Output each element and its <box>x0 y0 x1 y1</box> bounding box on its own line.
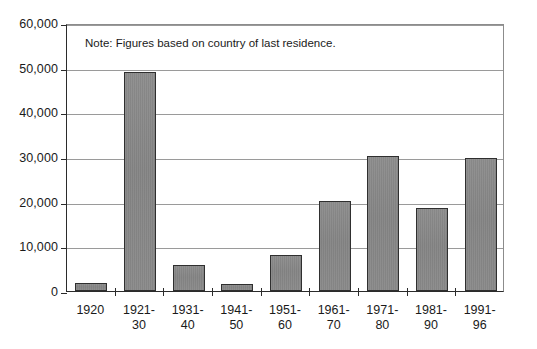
x-tick-label-line1: 1971- <box>366 303 398 317</box>
bar-chart-figure: 60,00050,00040,00030,00020,00010,0000 No… <box>0 0 537 349</box>
x-tick-label-line1: 1991- <box>464 303 496 317</box>
x-tick-label: 1971-80 <box>358 303 407 333</box>
bar <box>173 265 205 291</box>
bar <box>75 283 107 291</box>
x-tick-label-line1: 1951- <box>269 303 301 317</box>
x-tick-label-line1: 1941- <box>220 303 252 317</box>
x-tick-mark <box>455 288 456 296</box>
x-tick-label: 1920 <box>66 303 115 318</box>
y-axis: 60,00050,00040,00030,00020,00010,0000 <box>0 0 66 349</box>
y-tick-label: 60,000 <box>19 18 58 31</box>
x-tick-label-line2: 90 <box>407 318 456 333</box>
x-axis: 19201921-301931-401941-501951-601961-701… <box>66 292 504 349</box>
x-tick-label: 1931-40 <box>163 303 212 333</box>
x-tick-label-line1: 1981- <box>415 303 447 317</box>
x-tick-label-line2: 80 <box>358 318 407 333</box>
bar <box>319 201 351 291</box>
x-tick-mark <box>261 288 262 296</box>
x-tick-label: 1921-30 <box>115 303 164 333</box>
x-tick-label-line2: 50 <box>212 318 261 333</box>
x-tick-label: 1941-50 <box>212 303 261 333</box>
bars-series <box>67 25 503 291</box>
y-tick-label: 50,000 <box>19 63 58 76</box>
y-tick-label: 40,000 <box>19 107 58 120</box>
x-tick-label: 1961-70 <box>309 303 358 333</box>
bar <box>221 284 253 291</box>
x-tick-mark <box>309 288 310 296</box>
x-tick-mark <box>407 288 408 296</box>
bar <box>124 72 156 291</box>
x-tick-label-line1: 1920 <box>76 303 104 317</box>
y-tick-label: 0 <box>51 286 58 299</box>
x-tick-label: 1991-96 <box>455 303 504 333</box>
y-tick-label: 20,000 <box>19 197 58 210</box>
bar <box>416 208 448 291</box>
x-tick-label-line2: 96 <box>455 318 504 333</box>
x-tick-label-line2: 30 <box>115 318 164 333</box>
x-tick-label-line1: 1921- <box>123 303 155 317</box>
x-tick-mark <box>358 288 359 296</box>
bar <box>465 158 497 291</box>
plot-area: Note: Figures based on country of last r… <box>66 24 504 292</box>
x-tick-mark <box>115 288 116 296</box>
x-tick-label-line1: 1961- <box>318 303 350 317</box>
x-tick-label-line2: 60 <box>261 318 310 333</box>
x-tick-mark <box>212 288 213 296</box>
x-tick-mark <box>163 288 164 296</box>
y-tick-label: 30,000 <box>19 152 58 165</box>
x-tick-label-line1: 1931- <box>172 303 204 317</box>
bar <box>367 156 399 291</box>
x-tick-label-line2: 40 <box>163 318 212 333</box>
x-tick-label: 1951-60 <box>261 303 310 333</box>
x-tick-label-line2: 70 <box>309 318 358 333</box>
x-tick-label: 1981-90 <box>407 303 456 333</box>
bar <box>270 255 302 291</box>
y-tick-label: 10,000 <box>19 241 58 254</box>
